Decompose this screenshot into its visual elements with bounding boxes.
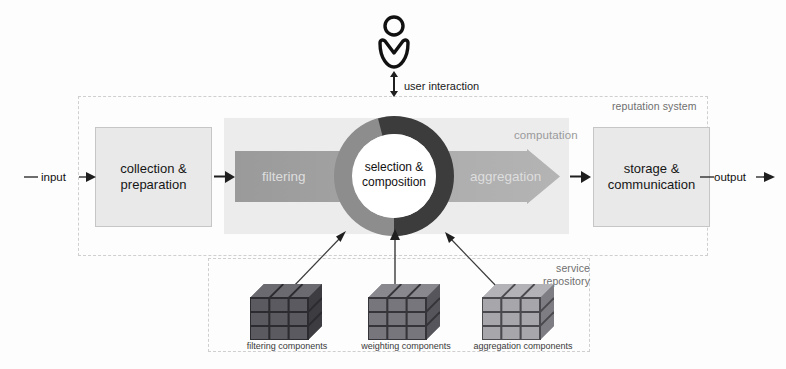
filtering-stage-label: filtering <box>262 169 306 184</box>
cube-weighting-components[interactable] <box>368 284 440 340</box>
cube-weighting-label: weighting components <box>344 341 468 351</box>
diagram-canvas: reputation system computation filtering … <box>0 0 786 369</box>
ring-center-line-1: selection & <box>365 160 424 174</box>
storage-communication-text: storage & communication <box>608 161 695 193</box>
aggregation-stage-label: aggregation <box>470 169 541 184</box>
storage-line-2: communication <box>608 177 695 192</box>
ring-center-line-2: composition <box>362 175 426 189</box>
cube-aggregation-label: aggregation components <box>458 341 588 351</box>
cube-filtering-label: filtering components <box>228 341 346 351</box>
output-label: output <box>714 171 746 183</box>
ring-center-label: selection & composition <box>344 160 444 189</box>
reputation-system-label: reputation system <box>612 100 697 112</box>
user-interaction-label: user interaction <box>404 80 479 92</box>
cube-filtering-components[interactable] <box>250 284 322 340</box>
collection-preparation-text: collection & preparation <box>120 161 186 193</box>
storage-communication-box[interactable]: storage & communication <box>593 127 710 227</box>
collection-preparation-box[interactable]: collection & preparation <box>95 127 212 227</box>
collection-line-1: collection & <box>120 161 186 176</box>
computation-label: computation <box>514 129 578 141</box>
storage-line-1: storage & <box>624 161 680 176</box>
cube-aggregation-components[interactable] <box>482 284 554 340</box>
connector-arrow-computation-to-storage <box>570 170 592 184</box>
user-icon <box>375 15 413 71</box>
connector-arrow-collection-to-computation <box>214 170 236 184</box>
input-label: input <box>41 171 66 183</box>
service-repository-line-1: service <box>556 262 590 274</box>
repository-to-ring-arrows <box>260 226 530 290</box>
user-interaction-arrow <box>387 71 401 97</box>
collection-line-2: preparation <box>121 177 187 192</box>
